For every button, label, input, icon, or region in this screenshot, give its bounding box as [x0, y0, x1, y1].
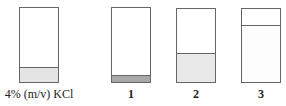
beaker-3	[241, 8, 281, 83]
solution-level-reference	[20, 67, 58, 82]
solution-level-1	[112, 75, 150, 82]
beaker-reference	[19, 7, 59, 83]
beaker-1	[111, 7, 151, 83]
beaker-2	[176, 8, 216, 83]
label-reference: 4% (m/v) KCl	[0, 87, 78, 102]
label-2: 2	[176, 87, 216, 102]
solution-level-2	[177, 53, 215, 82]
solution-level-3	[242, 25, 280, 82]
label-3: 3	[241, 87, 281, 102]
label-1: 1	[111, 87, 151, 102]
